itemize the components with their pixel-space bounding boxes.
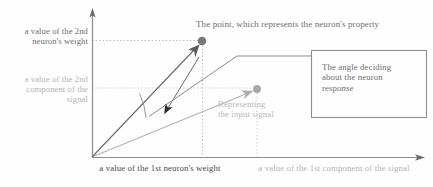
signal-point-caption: Representing the input signal <box>218 99 308 120</box>
weight-point <box>198 37 207 46</box>
y-axis-weight-label: a value of the 2nd neuron's weight <box>2 26 88 46</box>
y-axis-signal-label: a value of the 2nd component of the sign… <box>2 74 88 104</box>
x-axis-weight-label: a value of the 1st neuron's weight <box>82 163 238 173</box>
weight-vector-group <box>92 37 206 157</box>
diagram-canvas: a value of the 2nd neuron's weight a val… <box>0 0 433 187</box>
angle-marker-group <box>140 57 200 118</box>
signal-point <box>253 85 261 93</box>
x-axis-signal-label: a value of the 1st component of the sign… <box>236 163 432 173</box>
weight-point-caption: The point, which represents the neuron's… <box>196 19 432 30</box>
signal-vector-group <box>92 85 261 157</box>
weight-vector-arrowhead <box>188 45 199 58</box>
angle-callout-caption: The angle deciding about the neuron resp… <box>322 62 426 93</box>
